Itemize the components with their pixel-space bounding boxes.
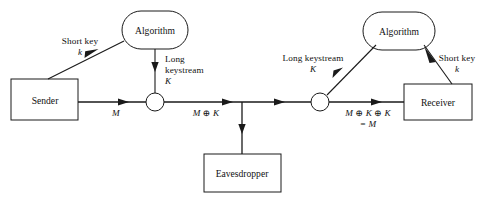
edge-short-key-right bbox=[424, 45, 452, 84]
short-key-left-symbol: k bbox=[78, 48, 82, 58]
short-key-right-label: Short key bbox=[439, 54, 475, 64]
edge-eavesdrop-arrowhead bbox=[238, 124, 245, 134]
receiver-label: Receiver bbox=[421, 97, 455, 108]
decrypted-label-line1: M ⊕ K ⊕ K bbox=[345, 109, 390, 119]
diagram-canvas: Algorithm Algorithm Sender Receiver Eave… bbox=[0, 0, 486, 207]
edge-plaintext-m-arrowhead bbox=[118, 98, 129, 105]
plaintext-m-label: M bbox=[112, 109, 120, 119]
edge-long-keystream-left-arrowhead bbox=[151, 62, 158, 72]
ciphertext-label: M ⊕ K bbox=[193, 109, 220, 119]
short-key-left-label: Short key bbox=[62, 37, 98, 47]
edge-ciphertext-arrowhead-2 bbox=[274, 98, 285, 105]
edge-short-key-right-arrowhead bbox=[425, 47, 437, 63]
edge-short-key-left bbox=[48, 41, 124, 79]
xor-circle-left-shape bbox=[146, 93, 164, 111]
decrypted-label-line2: = M bbox=[360, 120, 376, 130]
short-key-right-symbol: k bbox=[455, 65, 459, 75]
long-keystream-right-label: Long keystream bbox=[283, 54, 344, 64]
edge-decrypted-m-arrowhead bbox=[371, 98, 382, 105]
long-keystream-left-symbol: K bbox=[165, 76, 171, 87]
long-keystream-left-label-line1: Long bbox=[165, 54, 185, 65]
long-keystream-left-label-line2: keystream bbox=[165, 65, 204, 76]
long-keystream-right-symbol: K bbox=[310, 65, 316, 75]
xor-circle-right-shape bbox=[311, 93, 329, 111]
sender-label: Sender bbox=[32, 95, 59, 106]
edge-ciphertext-arrowhead-1 bbox=[222, 98, 233, 105]
algorithm-left-label: Algorithm bbox=[135, 25, 175, 36]
algorithm-right-label: Algorithm bbox=[379, 26, 419, 37]
eavesdropper-label: Eavesdropper bbox=[216, 168, 269, 179]
edge-long-keystream-right-arrowhead bbox=[333, 68, 344, 79]
